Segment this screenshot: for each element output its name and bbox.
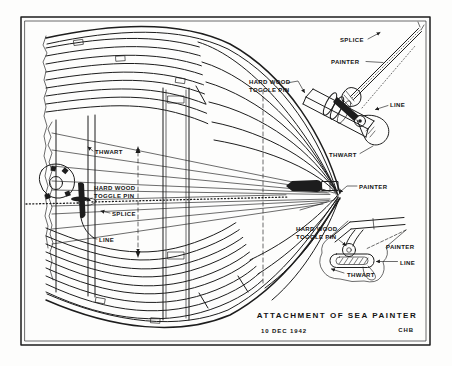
main-thwart-label: THWART (95, 149, 123, 155)
scanned-drawing-page: THWART HARD WOOD TOGGLE PIN SPLICE LINE … (0, 0, 452, 366)
inset2-hardwood-label-1: HARD WOOD (296, 226, 338, 232)
inset2-thwart-label: THWART (347, 272, 375, 278)
inset1-thwart-label: THWART (329, 152, 357, 158)
sea-painter-diagram: THWART HARD WOOD TOGGLE PIN SPLICE LINE … (0, 0, 452, 366)
section-side-band (330, 218, 405, 243)
broken-edge (43, 36, 53, 280)
top-planking (46, 38, 300, 188)
perspective-inset: SPLICE PAINTER HARD WOOD TOGGLE PIN LINE… (249, 22, 424, 158)
inset1-hardwood-label-1: HARD WOOD (249, 79, 291, 85)
drawing-date: 10 DEC 1942 (261, 328, 307, 334)
inset1-painter-label: PAINTER (331, 59, 360, 65)
inset1-hardwood-label-2: TOGGLE PIN (249, 87, 289, 93)
drawing-title: ATTACHMENT OF SEA PAINTER (257, 311, 417, 320)
inset1-splice-label: SPLICE (340, 37, 364, 43)
main-hardwood-label-2: TOGGLE PIN (94, 193, 134, 199)
boat-plan-view: THWART HARD WOOD TOGGLE PIN SPLICE LINE … (26, 26, 388, 327)
bow-fitting (286, 180, 338, 192)
inset2-line-label: LINE (400, 260, 415, 266)
main-line-label: LINE (99, 237, 114, 243)
inset-painter-rope (351, 22, 425, 108)
title-block: ATTACHMENT OF SEA PAINTER 10 DEC 1942 CH… (257, 311, 417, 334)
section-toggle-pin (343, 244, 356, 257)
inset-line-bight (357, 115, 389, 145)
inset-toggle-pin (333, 88, 366, 127)
main-hardwood-label-1: HARD WOOD (94, 185, 136, 191)
inset2-hardwood-label-2: TOGGLE PIN (296, 234, 336, 240)
drawing-initials: CHB (398, 327, 414, 333)
main-painter-label: PAINTER (359, 184, 388, 190)
inset1-line-label: LINE (390, 102, 405, 108)
inset2-painter-label: PAINTER (386, 244, 415, 250)
main-splice-label: SPLICE (112, 211, 136, 217)
